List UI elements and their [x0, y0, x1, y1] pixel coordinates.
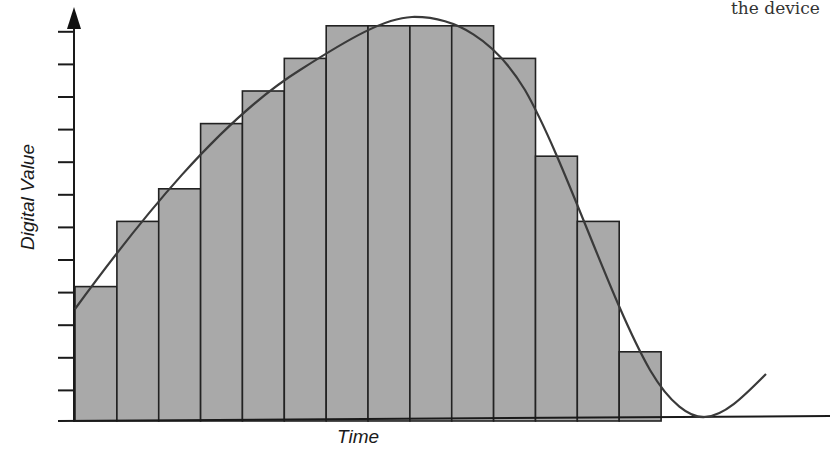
y-axis-label: Digital Value: [17, 144, 39, 250]
bar-10: [452, 26, 494, 421]
chart: [0, 0, 830, 463]
bar-2: [117, 221, 159, 421]
y-axis-arrow-icon: [67, 7, 81, 29]
bar-series: [75, 26, 661, 421]
y-axis-ticks: [58, 32, 74, 391]
bar-11: [494, 58, 536, 421]
bar-9: [410, 26, 452, 421]
bar-1: [75, 287, 117, 421]
bar-4: [201, 124, 243, 421]
bar-5: [242, 91, 284, 421]
bar-7: [326, 26, 368, 421]
x-axis-label: Time: [337, 426, 379, 448]
bar-6: [284, 58, 326, 421]
bar-13: [577, 221, 619, 421]
bar-3: [159, 189, 201, 421]
bar-8: [368, 26, 410, 421]
bar-12: [536, 156, 578, 421]
bar-14: [619, 352, 661, 421]
